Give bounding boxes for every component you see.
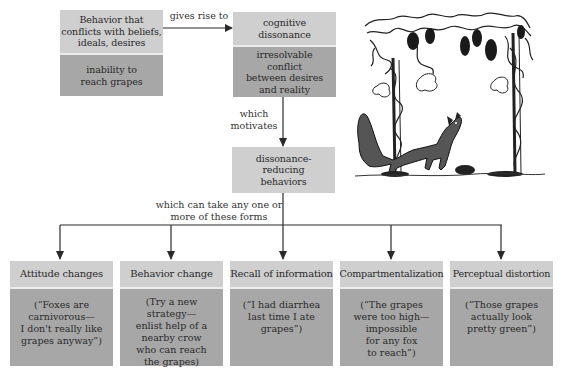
recall-of-information-title: Recall of information — [230, 268, 333, 280]
compartmentalization-example: (“The grapes were too high— impossible f… — [340, 299, 443, 359]
form-box-attitude-changes: Attitude changes (“Foxes are carnivorous… — [10, 261, 113, 366]
form-title-perceptual: Perceptual distortion — [450, 261, 553, 287]
form-box-perceptual-distortion: Perceptual distortion (“Those grapes act… — [450, 261, 553, 366]
cognitive-dissonance-example: irresolvable conflict between desires an… — [233, 47, 336, 97]
inability-text: inability to reach grapes — [81, 64, 143, 87]
form-title-behavior: Behavior change — [120, 261, 223, 287]
form-example-recall: (“I had diarrhea last time I ate grapes”… — [230, 289, 333, 366]
form-box-recall-of-information: Recall of information (“I had diarrhea l… — [230, 261, 333, 366]
perceptual-distortion-title: Perceptual distortion — [453, 268, 550, 280]
behavior-conflict-box: Behavior that conflicts with beliefs, id… — [60, 10, 163, 96]
recall-of-information-example: (“I had diarrhea last time I ate grapes”… — [230, 299, 333, 335]
dissonance-reducing-header: dissonance- reducing behaviors — [232, 147, 335, 193]
gives-rise-to-label: gives rise to — [168, 10, 230, 22]
cognitive-dissonance-box: cognitive dissonance irresolvable confli… — [233, 12, 336, 97]
form-title-recall: Recall of information — [230, 261, 333, 287]
fox-and-grapes-illustration-icon — [355, 8, 545, 180]
form-example-perceptual: (“Those grapes actually look pretty gree… — [450, 289, 553, 366]
fox-icon — [358, 112, 462, 174]
form-example-behavior: (Try a new strategy— enlist help of a ne… — [120, 289, 223, 366]
form-title-compartmentalization: Compartmentalization — [340, 261, 443, 287]
attitude-changes-title: Attitude changes — [20, 268, 103, 280]
behavior-change-example: (Try a new strategy— enlist help of a ne… — [120, 296, 223, 368]
form-example-attitude: (“Foxes are carnivorous— I don't really … — [10, 289, 113, 366]
attitude-changes-example: (“Foxes are carnivorous— I don't really … — [10, 299, 113, 347]
behavior-conflict-text: Behavior that conflicts with beliefs, id… — [61, 14, 161, 49]
cognitive-dissonance-text: cognitive dissonance — [258, 17, 310, 40]
behavior-change-title: Behavior change — [130, 268, 212, 280]
behavior-conflict-header: Behavior that conflicts with beliefs, id… — [60, 10, 163, 53]
form-example-compartmentalization: (“The grapes were too high— impossible f… — [340, 289, 443, 366]
form-title-attitude: Attitude changes — [10, 261, 113, 287]
irresolvable-conflict-text: irresolvable conflict between desires an… — [246, 49, 323, 95]
behavior-conflict-example: inability to reach grapes — [60, 55, 163, 96]
dissonance-reducing-box: dissonance- reducing behaviors — [232, 147, 335, 193]
compartmentalization-title: Compartmentalization — [340, 268, 444, 280]
dissonance-reducing-text: dissonance- reducing behaviors — [256, 153, 312, 188]
form-box-behavior-change: Behavior change (Try a new strategy— enl… — [120, 261, 223, 366]
form-box-compartmentalization: Compartmentalization (“The grapes were t… — [340, 261, 443, 366]
cognitive-dissonance-header: cognitive dissonance — [233, 12, 336, 45]
which-motivates-label: which motivates — [228, 108, 280, 131]
branch-label: which can take any one or more of these … — [148, 199, 290, 222]
perceptual-distortion-example: (“Those grapes actually look pretty gree… — [450, 299, 553, 335]
